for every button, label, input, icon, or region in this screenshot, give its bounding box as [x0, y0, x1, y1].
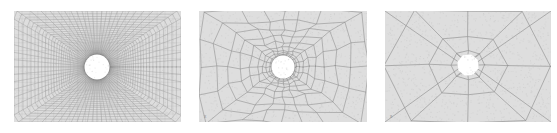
mesh-figure: x x — [0, 0, 557, 133]
center-hole — [85, 55, 110, 80]
mesh-panel-fine — [14, 11, 181, 122]
panel-fine-canvas — [14, 11, 181, 122]
panel-coarse-canvas: x — [385, 11, 551, 122]
mesh-panel-coarse: x — [385, 11, 551, 122]
center-hole — [272, 56, 295, 79]
panel-medium-canvas: x — [199, 11, 367, 122]
mesh-panel-medium: x — [199, 11, 367, 122]
